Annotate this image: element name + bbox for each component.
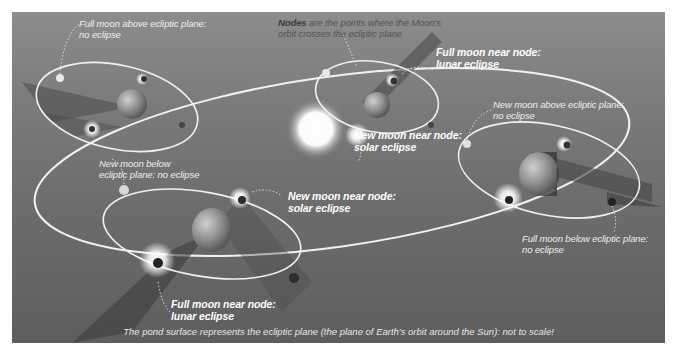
label-full-moon-below: Full moon below ecliptic plane:no eclips… xyxy=(522,233,648,255)
label-new-moon-node-bottom: New moon near node:solar eclipse xyxy=(288,190,396,214)
label-new-moon-above: New moon above ecliptic plane:no eclipse xyxy=(493,99,624,121)
earth-icon xyxy=(192,208,232,252)
label-full-moon-node-bottom: Full moon near node:lunar eclipse xyxy=(171,298,276,322)
label-full-moon-node-top: Full moon near node:lunar eclipse xyxy=(436,46,541,70)
nodes-note: Nodes are the points where the Moon's or… xyxy=(278,17,441,39)
figure-caption: The pond surface represents the ecliptic… xyxy=(12,326,665,337)
earth-icon xyxy=(364,92,390,118)
label-full-moon-above: Full moon above ecliptic plane:no eclips… xyxy=(79,18,206,40)
earth-icon xyxy=(519,152,559,196)
earth-icon xyxy=(117,89,147,119)
diagram-frame: Nodes are the points where the Moon's or… xyxy=(12,12,665,343)
label-new-moon-below: New moon belowecliptic plane: no eclipse xyxy=(99,158,199,180)
label-new-moon-node-center: New moon near node:solar eclipse xyxy=(354,129,462,153)
sun-icon xyxy=(286,99,346,159)
